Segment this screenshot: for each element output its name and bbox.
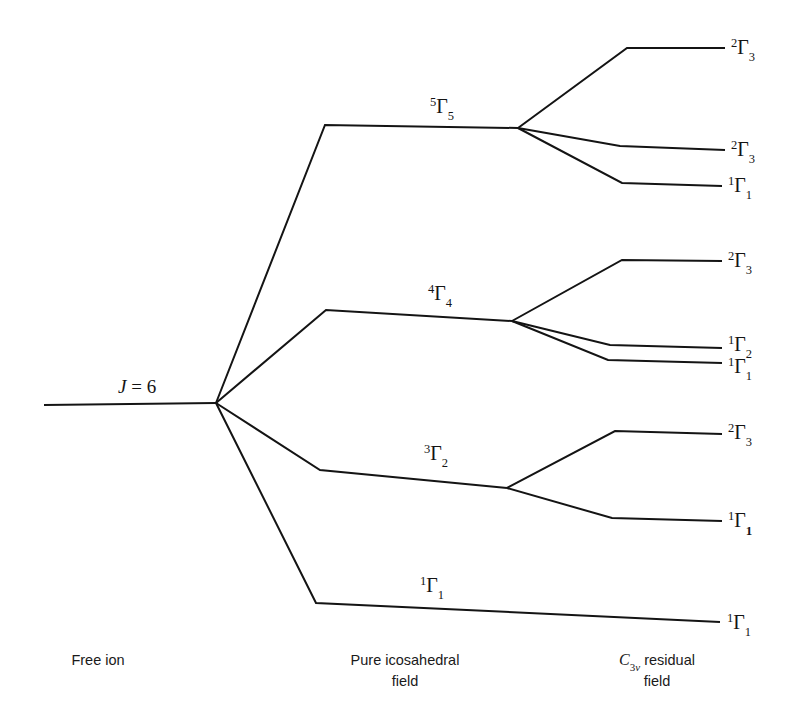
label-c3v-1: 2Γ3 [731,36,755,64]
label-c3v-7: 2Γ3 [728,421,752,449]
label-1gamma1-icosahedral: 1Γ1 [420,574,444,602]
label-c3v-4: 2Γ3 [728,249,752,277]
c3v-branch-2-3 [512,321,722,363]
label-c3v-8: 1Γ1 [728,509,752,538]
c3v-branch-1-2 [518,128,725,150]
free-ion-level-line [44,403,216,405]
branch-to-1gamma1 [216,403,720,622]
c3v-branch-3-1 [507,431,722,488]
caption-icosahedral-line1: Pure icosahedral [351,652,460,668]
free-ion-j-label: J = 6 [118,376,156,397]
caption-free-ion: Free ion [71,652,124,668]
c3v-branch-2-1 [512,260,722,321]
level-splitting-svg: 5Γ5 4Γ4 3Γ2 1Γ1 J = 6 2Γ3 2Γ3 1Γ1 2Γ3 1Γ… [0,0,796,726]
label-c3v-9: 1Γ1 [727,611,751,639]
caption-c3v-line1: C3v residual [619,651,695,673]
c3v-branch-1-3 [518,128,722,186]
branch-to-3gamma2 [216,403,507,488]
caption-c3v-line2: field [644,673,671,689]
c3v-branch-1-1 [518,48,725,128]
caption-icosahedral-line2: field [392,673,419,689]
branch-to-5gamma5 [216,125,518,403]
label-c3v-3: 1Γ1 [728,174,752,202]
branch-to-4gamma4 [216,310,512,403]
energy-level-diagram: 5Γ5 4Γ4 3Γ2 1Γ1 J = 6 2Γ3 2Γ3 1Γ1 2Γ3 1Γ… [0,0,796,726]
label-3gamma2: 3Γ2 [424,442,448,470]
c3v-branch-3-2 [507,488,722,521]
label-c3v-2: 2Γ3 [731,138,755,166]
label-5gamma5: 5Γ5 [430,95,454,123]
label-4gamma4: 4Γ4 [428,282,453,310]
